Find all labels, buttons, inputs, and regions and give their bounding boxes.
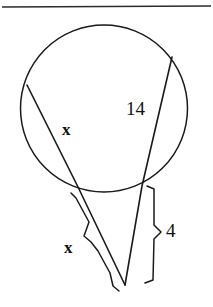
label-left-external: x [64, 238, 73, 257]
figure-background [0, 0, 213, 307]
label-right-external: 4 [166, 220, 176, 241]
label-left-chord: x [62, 120, 71, 139]
geometry-figure-svg: x 14 x 4 [0, 0, 213, 307]
page-divider-rule [2, 6, 211, 7]
label-right-chord: 14 [126, 98, 146, 119]
geometry-figure-container: x 14 x 4 [0, 0, 213, 307]
